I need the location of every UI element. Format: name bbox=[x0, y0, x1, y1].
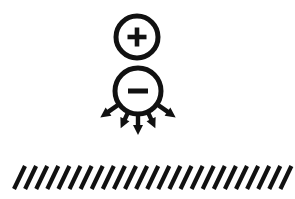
plus-icon-vertical-bar bbox=[135, 28, 140, 47]
ground-hatch-mark bbox=[169, 166, 180, 189]
ground-hatch-mark bbox=[225, 166, 236, 189]
downward-field-arrows bbox=[100, 104, 175, 135]
negative-charge bbox=[115, 68, 161, 114]
ground-hatch-mark bbox=[70, 166, 81, 189]
field-arrow-head-3 bbox=[133, 125, 143, 135]
ground-hatch-mark bbox=[192, 166, 203, 189]
ground-hatch-mark bbox=[92, 166, 103, 189]
ground-hatch-mark bbox=[280, 166, 291, 189]
physics-diagram-canvas bbox=[0, 0, 295, 199]
hatched-ground bbox=[14, 166, 291, 189]
ground-hatch-mark bbox=[181, 166, 192, 189]
ground-hatch-mark bbox=[269, 166, 280, 189]
ground-hatch-mark bbox=[58, 166, 69, 189]
ground-hatch-mark bbox=[14, 166, 25, 189]
ground-hatch-mark bbox=[147, 166, 158, 189]
ground-hatch-mark bbox=[258, 166, 269, 189]
positive-charge bbox=[116, 16, 158, 58]
ground-hatch-mark bbox=[103, 166, 114, 189]
ground-hatch-mark bbox=[136, 166, 147, 189]
diagram-svg bbox=[0, 0, 295, 199]
ground-hatch-mark bbox=[36, 166, 47, 189]
minus-icon-bar bbox=[128, 89, 148, 94]
ground-hatch-mark bbox=[214, 166, 225, 189]
field-arrow-shaft-5 bbox=[156, 104, 169, 113]
field-arrow-shaft-1 bbox=[107, 104, 120, 113]
ground-hatch-mark bbox=[158, 166, 169, 189]
ground-hatch-mark bbox=[114, 166, 125, 189]
ground-hatch-mark bbox=[125, 166, 136, 189]
ground-hatch-mark bbox=[81, 166, 92, 189]
ground-hatch-mark bbox=[47, 166, 58, 189]
ground-hatch-mark bbox=[247, 166, 258, 189]
ground-hatch-mark bbox=[25, 166, 36, 189]
ground-hatch-mark bbox=[203, 166, 214, 189]
ground-hatch-mark bbox=[236, 166, 247, 189]
